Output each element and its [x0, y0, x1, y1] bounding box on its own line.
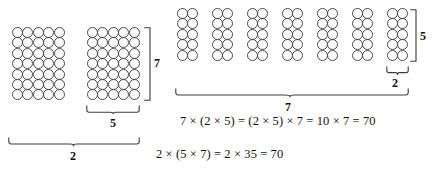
circle-dot [257, 18, 268, 29]
circle-dot [97, 58, 108, 69]
circle-dot [54, 89, 65, 100]
circle-dot [387, 29, 398, 40]
circle-dot [257, 50, 268, 61]
circle-dot [22, 58, 33, 69]
left-array-1 [12, 27, 64, 100]
circle-dot [387, 8, 398, 19]
circle-dot [12, 48, 23, 59]
circle-dot [97, 89, 108, 100]
circle-dot [129, 79, 140, 90]
circle-dot [257, 29, 268, 40]
circle-dot [43, 79, 54, 90]
circle-dot [87, 69, 98, 80]
circle-dot [129, 48, 140, 59]
circle-dot [33, 69, 44, 80]
circle-dot [327, 29, 338, 40]
circle-dot [108, 37, 119, 48]
circle-dot [118, 79, 129, 90]
circle-dot [33, 27, 44, 38]
right-columns-brace [386, 66, 409, 75]
left-groups-label: 2 [70, 150, 76, 162]
circle-dot [118, 48, 129, 59]
circle-dot [22, 69, 33, 80]
circle-dot [108, 58, 119, 69]
circle-dot [108, 69, 119, 80]
circle-dot [108, 27, 119, 38]
right-group-4 [282, 8, 303, 60]
circle-dot [118, 69, 129, 80]
circle-dot [108, 89, 119, 100]
right-group-2 [212, 8, 233, 60]
circle-dot [327, 8, 338, 19]
circle-dot [362, 39, 373, 50]
circle-dot [327, 50, 338, 61]
circle-dot [12, 89, 23, 100]
circle-dot [12, 27, 23, 38]
right-group-6 [352, 8, 373, 60]
circle-dot [22, 27, 33, 38]
circle-dot [352, 18, 363, 29]
circle-dot [97, 27, 108, 38]
circle-dot [222, 50, 233, 61]
circle-dot [317, 29, 328, 40]
circle-dot [352, 39, 363, 50]
circle-dot [87, 48, 98, 59]
circle-dot [43, 37, 54, 48]
circle-dot [129, 89, 140, 100]
circle-dot [212, 50, 223, 61]
left-columns-brace [86, 105, 140, 114]
circle-dot [212, 8, 223, 19]
circle-dot [247, 29, 258, 40]
circle-dot [87, 27, 98, 38]
circle-dot [282, 8, 293, 19]
circle-dot [97, 48, 108, 59]
left-groups-brace [8, 137, 140, 147]
circle-dot [177, 8, 188, 19]
circle-dot [327, 39, 338, 50]
circle-dot [54, 58, 65, 69]
circle-dot [397, 29, 408, 40]
circle-dot [282, 29, 293, 40]
circle-dot [97, 37, 108, 48]
circle-dot [352, 50, 363, 61]
equation-bottom: 2 × (5 × 7) = 2 × 35 = 70 [156, 148, 283, 161]
circle-dot [97, 79, 108, 90]
circle-dot [87, 58, 98, 69]
circle-dot [177, 50, 188, 61]
circle-dot [12, 37, 23, 48]
circle-dot [54, 48, 65, 59]
circle-dot [43, 89, 54, 100]
circle-dot [317, 39, 328, 50]
circle-dot [362, 29, 373, 40]
circle-dot [317, 18, 328, 29]
right-group-5 [317, 8, 338, 60]
circle-dot [222, 18, 233, 29]
circle-dot [54, 79, 65, 90]
circle-dot [387, 50, 398, 61]
circle-dot [118, 27, 129, 38]
circle-dot [292, 29, 303, 40]
circle-dot [118, 58, 129, 69]
circle-dot [292, 50, 303, 61]
circle-dot [282, 18, 293, 29]
circle-dot [282, 39, 293, 50]
left-columns-label: 5 [110, 117, 116, 129]
circle-dot [397, 18, 408, 29]
circle-dot [362, 18, 373, 29]
right-group-7 [387, 8, 408, 60]
circle-dot [397, 39, 408, 50]
circle-dot [327, 18, 338, 29]
circle-dot [247, 18, 258, 29]
circle-dot [33, 89, 44, 100]
circle-dot [282, 50, 293, 61]
circle-dot [247, 50, 258, 61]
circle-dot [387, 39, 398, 50]
circle-dot [187, 8, 198, 19]
circle-dot [33, 48, 44, 59]
circle-dot [43, 27, 54, 38]
circle-dot [43, 48, 54, 59]
circle-dot [33, 79, 44, 90]
circle-dot [12, 58, 23, 69]
right-rows-label: 5 [420, 30, 426, 42]
circle-dot [247, 39, 258, 50]
